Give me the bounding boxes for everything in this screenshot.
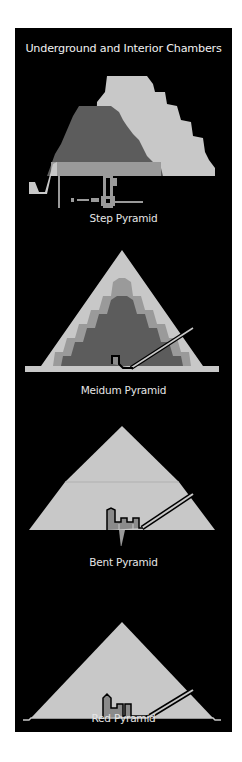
step-pyramid-label: Step Pyramid: [15, 212, 232, 224]
meidum-pyramid-illustration: [15, 248, 232, 378]
meidum-pyramid-figure: [15, 248, 232, 378]
red-pyramid-label: Red Pyramid: [15, 712, 232, 724]
red-pyramid-illustration: [15, 622, 232, 722]
red-pyramid-figure: [15, 622, 232, 722]
step-pyramid-illustration: [15, 68, 232, 208]
step-pyramid-figure: [15, 68, 232, 208]
bent-pyramid-illustration: [15, 426, 232, 546]
diagram-panel: Underground and Interior Chambers Step: [15, 28, 232, 732]
bent-pyramid-figure: [15, 426, 232, 546]
diagram-title: Underground and Interior Chambers: [15, 42, 232, 55]
meidum-pyramid-label: Meidum Pyramid: [15, 384, 232, 396]
bent-pyramid-label: Bent Pyramid: [15, 556, 232, 568]
